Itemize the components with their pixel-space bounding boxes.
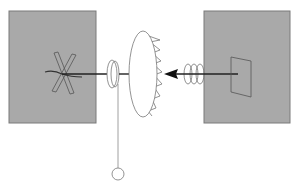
- pendulum-weight-icon: [112, 168, 124, 180]
- arrow-left-icon: [164, 69, 178, 79]
- left-box: [9, 11, 96, 123]
- toothed-wheel-icon: [129, 31, 162, 117]
- right-box: [204, 11, 290, 123]
- mechanism-diagram: [0, 0, 295, 188]
